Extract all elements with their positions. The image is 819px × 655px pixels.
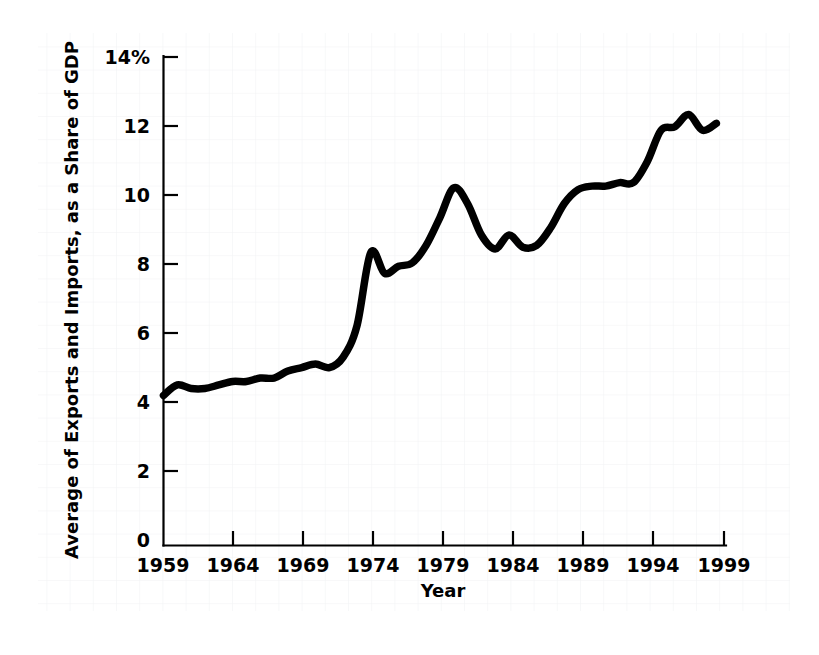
x-tick-label-1979: 1979 bbox=[417, 554, 470, 576]
y-tick-label-12: 12 bbox=[124, 115, 150, 137]
x-axis-title: Year bbox=[420, 580, 466, 601]
y-tick-label-6: 6 bbox=[137, 322, 150, 344]
chart-figure: 14% 12 10 8 6 4 2 0 1959 1964 1969 1974 … bbox=[0, 0, 819, 655]
y-tick-label-4: 4 bbox=[137, 391, 150, 413]
y-axis-ticks bbox=[164, 57, 179, 471]
y-tick-label-14: 14% bbox=[105, 46, 150, 68]
x-tick-label-1994: 1994 bbox=[627, 554, 680, 576]
x-tick-label-1974: 1974 bbox=[347, 554, 400, 576]
x-tick-label-1959: 1959 bbox=[137, 554, 190, 576]
x-tick-label-1999: 1999 bbox=[698, 554, 751, 576]
line-chart: 14% 12 10 8 6 4 2 0 1959 1964 1969 1974 … bbox=[0, 0, 819, 655]
x-tick-label-1989: 1989 bbox=[557, 554, 610, 576]
y-tick-label-2: 2 bbox=[137, 460, 150, 482]
x-axis-ticks bbox=[233, 531, 724, 546]
y-axis-title: Average of Exports and Imports, as a Sha… bbox=[61, 41, 82, 559]
y-tick-label-0: 0 bbox=[137, 529, 150, 551]
x-tick-label-1964: 1964 bbox=[207, 554, 260, 576]
y-tick-label-10: 10 bbox=[124, 184, 150, 206]
y-tick-label-8: 8 bbox=[137, 253, 150, 275]
x-tick-label-1984: 1984 bbox=[487, 554, 540, 576]
x-tick-label-1969: 1969 bbox=[277, 554, 330, 576]
data-series-line bbox=[164, 115, 717, 396]
